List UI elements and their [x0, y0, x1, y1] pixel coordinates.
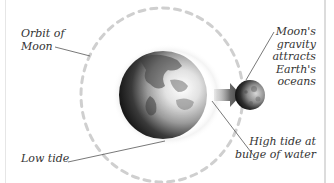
- label-line: Moon's: [273, 26, 316, 39]
- earth-icon: [119, 51, 207, 139]
- label-line: bulge of water: [235, 149, 316, 162]
- low-tide-label: Low tide: [21, 153, 69, 166]
- label-line: High tide at: [235, 136, 316, 149]
- label-line: oceans: [273, 76, 316, 89]
- moon-gravity-label: Moon's gravity attracts Earth's oceans: [273, 26, 316, 89]
- label-line: Orbit of: [21, 28, 64, 41]
- gravity-leader-line: [246, 32, 274, 80]
- moon-icon: [235, 80, 265, 110]
- high-tide-label: High tide at bulge of water: [235, 136, 316, 161]
- low-tide-leader-line: [68, 141, 165, 162]
- tides-diagram: Orbit of Moon Moon's gravity attracts Ea…: [0, 0, 334, 183]
- label-line: attracts: [273, 51, 316, 64]
- orbit-of-moon-label: Orbit of Moon: [21, 28, 64, 53]
- label-line: Moon: [21, 41, 64, 54]
- label-line: Low tide: [21, 153, 69, 166]
